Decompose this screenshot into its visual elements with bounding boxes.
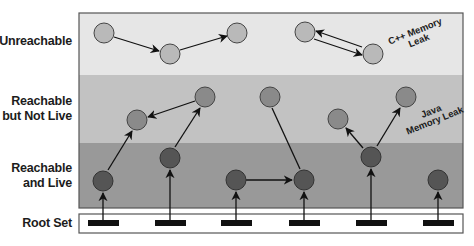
object-node bbox=[94, 23, 114, 43]
label-line: but Not Live bbox=[2, 109, 72, 124]
label-unreachable: Unreachable bbox=[0, 34, 72, 49]
label-unreachable-text: Unreachable bbox=[0, 34, 72, 48]
object-node bbox=[93, 171, 113, 191]
label-root-set: Root Set bbox=[22, 216, 72, 231]
object-node bbox=[227, 23, 247, 43]
root-bar bbox=[423, 220, 454, 226]
root-bar bbox=[88, 220, 119, 226]
object-node bbox=[260, 87, 280, 107]
object-node bbox=[127, 110, 147, 130]
object-node bbox=[226, 170, 246, 190]
label-line: and Live bbox=[11, 176, 72, 191]
label-line: Reachable bbox=[11, 161, 72, 176]
label-root-set-text: Root Set bbox=[22, 216, 72, 230]
object-node bbox=[195, 87, 215, 107]
label-line: Reachable bbox=[2, 94, 72, 109]
root-bar bbox=[289, 220, 320, 226]
root-set-box bbox=[79, 214, 463, 233]
object-node bbox=[160, 148, 180, 168]
object-node bbox=[160, 44, 180, 64]
root-bar bbox=[155, 220, 186, 226]
object-node bbox=[361, 147, 381, 167]
label-reachable-not-live: Reachable but Not Live bbox=[2, 94, 72, 124]
object-node bbox=[328, 109, 348, 129]
object-node bbox=[295, 22, 315, 42]
object-node bbox=[396, 87, 416, 107]
object-node bbox=[294, 170, 314, 190]
label-reachable-live: Reachable and Live bbox=[11, 161, 72, 191]
band-reachable-live bbox=[79, 143, 463, 208]
root-bar bbox=[356, 220, 387, 226]
object-node bbox=[363, 44, 383, 64]
root-bar bbox=[221, 220, 252, 226]
object-node bbox=[428, 170, 448, 190]
